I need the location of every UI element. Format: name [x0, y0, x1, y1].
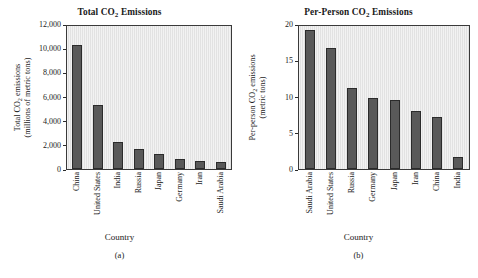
bar-slot [384, 26, 405, 169]
bar-japan [154, 154, 164, 169]
x-axis-tick-slot: China [427, 172, 448, 228]
x-axis-tick-label-germany: Germany [369, 172, 377, 202]
x-axis-tick-slot: United States [88, 172, 109, 228]
x-axis-tick-label-russia: Russia [348, 172, 356, 193]
x-axis-tick-slot: Saudi Arabia [299, 172, 320, 228]
x-axis-tick-label-saudi-arabia: Saudi Arabia [306, 172, 314, 214]
bar-series-b [299, 26, 469, 169]
bar-slot [363, 26, 384, 169]
bar-russia [347, 88, 357, 169]
chart-title-a-main: Total CO [77, 7, 114, 17]
x-axis-tick-label-germany: Germany [176, 172, 184, 202]
bar-iran [411, 111, 421, 169]
chart-title-b-tail: Emissions [370, 7, 413, 17]
y-axis-tick-label: 4,000 [43, 118, 63, 126]
x-axis-tick-label-china: China [73, 172, 81, 191]
panel-caption-b: (b) [239, 250, 478, 260]
figure-container: Total CO2 Emissions Total CO2 emissions … [0, 0, 478, 278]
x-axis-tick-slot: Russia [342, 172, 363, 228]
bar-slot [427, 26, 448, 169]
x-axis-tick-slot: Iran [190, 172, 211, 228]
x-axis-tick-label-india: India [454, 172, 462, 188]
x-axis-tick-labels-a: ChinaUnited StatesIndiaRussiaJapanGerman… [67, 172, 231, 228]
bar-slot [170, 26, 191, 169]
x-axis-tick-slot: India [108, 172, 129, 228]
x-axis-tick-slot: Saudi Arabia [211, 172, 232, 228]
x-axis-tick-slot: China [67, 172, 88, 228]
chart-panel-a: Total CO2 Emissions Total CO2 emissions … [0, 0, 239, 278]
bar-russia [134, 149, 144, 169]
x-axis-tick-label-japan: Japan [391, 172, 399, 190]
bar-saudi-arabia [216, 162, 226, 169]
y-axis-tick-label: 10,000 [39, 45, 63, 53]
bar-slot [108, 26, 129, 169]
bar-china [72, 45, 82, 169]
bar-india [113, 142, 123, 169]
x-axis-tick-slot: India [448, 172, 469, 228]
chart-title-a-tail: Emissions [118, 7, 161, 17]
y-axis-tick-label: 12,000 [39, 21, 63, 29]
chart-title-a: Total CO2 Emissions [0, 7, 239, 17]
x-axis-tick-slot: Iran [405, 172, 426, 228]
bar-slot [129, 26, 150, 169]
bar-japan [390, 100, 400, 169]
bar-germany [175, 159, 185, 169]
x-axis-tick-label-iran: Iran [412, 172, 420, 185]
panel-caption-a: (a) [0, 250, 239, 260]
x-axis-tick-slot: United States [320, 172, 341, 228]
x-axis-tick-label-iran: Iran [196, 172, 204, 185]
bar-germany [368, 98, 378, 169]
x-axis-tick-label-india: India [114, 172, 122, 188]
x-axis-tick-label-china: China [433, 172, 441, 191]
x-axis-tick-slot: Japan [149, 172, 170, 228]
bar-slot [448, 26, 469, 169]
y-axis-tick-label: 2,000 [43, 142, 63, 150]
bar-series-a [67, 26, 231, 169]
x-axis-tick-label-united-states: United States [94, 172, 102, 215]
x-axis-tick-slot: Germany [363, 172, 384, 228]
x-axis-tick-labels-b: Saudi ArabiaUnited StatesRussiaGermanyJa… [299, 172, 469, 228]
y-axis-tick-label: 15 [285, 57, 295, 65]
y-axis-b: 05101520 [239, 25, 298, 171]
bar-china [432, 117, 442, 169]
bar-slot [211, 26, 232, 169]
y-axis-tick-label: 10 [285, 94, 295, 102]
bar-iran [195, 161, 205, 169]
bar-slot [299, 26, 320, 169]
bar-slot [342, 26, 363, 169]
bar-saudi-arabia [305, 30, 315, 169]
bar-slot [88, 26, 109, 169]
plot-area-b [298, 25, 470, 170]
bar-slot [320, 26, 341, 169]
x-axis-tick-label-japan: Japan [155, 172, 163, 190]
x-axis-tick-label-russia: Russia [135, 172, 143, 193]
x-axis-title-a: Country [0, 232, 239, 242]
y-axis-tick-label: 6,000 [43, 94, 63, 102]
y-axis-tick-label: 8,000 [43, 69, 63, 77]
x-axis-tick-slot: Russia [129, 172, 150, 228]
bar-slot [149, 26, 170, 169]
bar-slot [67, 26, 88, 169]
chart-panel-b: Per-Person CO2 Emissions Per-person CO2 … [239, 0, 478, 278]
chart-title-b-subscript: 2 [366, 11, 370, 19]
bar-slot [405, 26, 426, 169]
bar-india [453, 157, 463, 169]
x-axis-title-b: Country [239, 232, 478, 242]
x-axis-tick-label-saudi-arabia: Saudi Arabia [217, 172, 225, 214]
chart-title-a-subscript: 2 [115, 11, 119, 19]
chart-title-b: Per-Person CO2 Emissions [239, 7, 478, 17]
bar-united-states [326, 48, 336, 169]
bar-united-states [93, 105, 103, 169]
x-axis-tick-slot: Japan [384, 172, 405, 228]
chart-title-b-main: Per-Person CO [304, 7, 366, 17]
x-axis-tick-label-united-states: United States [327, 172, 335, 215]
plot-area-a [66, 25, 232, 170]
y-axis-a: 02,0004,0006,0008,00010,00012,000 [0, 25, 66, 171]
y-axis-tick-label: 20 [285, 21, 295, 29]
x-axis-tick-slot: Germany [170, 172, 191, 228]
bar-slot [190, 26, 211, 169]
